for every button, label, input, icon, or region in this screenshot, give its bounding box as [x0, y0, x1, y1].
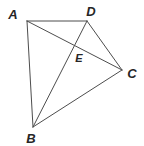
- geometry-figure: A D C B E: [0, 0, 144, 146]
- segment-cb: [33, 70, 122, 127]
- vertex-label-d: D: [86, 5, 95, 18]
- segments-group: [27, 21, 122, 127]
- vertex-label-b: B: [26, 132, 35, 145]
- vertex-label-a: A: [8, 8, 17, 21]
- vertex-label-e: E: [75, 53, 82, 64]
- figure-canvas: [0, 0, 144, 146]
- segment-dc: [87, 21, 122, 70]
- segment-bd-diagonal: [33, 21, 87, 127]
- vertex-label-c: C: [127, 67, 136, 80]
- segment-ba: [27, 21, 33, 127]
